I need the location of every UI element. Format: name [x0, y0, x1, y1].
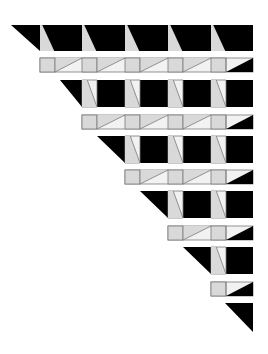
plain-cell: [211, 58, 226, 72]
plain-cell: [168, 115, 183, 129]
plain-cell: [168, 58, 183, 72]
dark-band-4: [140, 191, 253, 218]
plain-cell: [125, 115, 140, 129]
plain-cell: [40, 58, 55, 72]
plain-cell: [211, 115, 226, 129]
plain-cell: [211, 226, 226, 240]
plain-cell: [211, 170, 226, 184]
plain-cell: [82, 58, 97, 72]
plain-cell: [168, 170, 183, 184]
plain-cell: [82, 115, 97, 129]
plain-cell: [168, 226, 183, 240]
plain-cell: [125, 58, 140, 72]
plain-cell: [211, 282, 226, 296]
dark-band-6: [225, 303, 253, 332]
triangle-tessellation: [0, 0, 268, 354]
plain-cell: [125, 170, 140, 184]
